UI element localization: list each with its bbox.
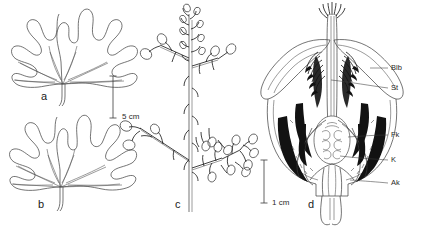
scale-bar-5cm-graphic <box>110 76 117 118</box>
panel-letter-b: b <box>38 199 44 210</box>
callout-label-fk: Fk <box>391 131 399 139</box>
inflorescence-c-drawing <box>118 3 260 212</box>
line-art-layer <box>0 0 423 228</box>
callout-label-k: K <box>391 156 396 164</box>
scale-label-5cm: 5 cm <box>122 113 139 121</box>
figure-plate: a b c d 5 cm 1 cm Blb St Fk K Ak <box>0 0 423 228</box>
callout-label-ak: Ak <box>391 179 400 187</box>
scale-bar-1cm-graphic <box>261 160 268 203</box>
panel-letter-a: a <box>41 91 47 102</box>
callout-label-blb: Blb <box>391 64 402 72</box>
callout-label-st: St <box>391 84 398 92</box>
panel-letter-d: d <box>308 199 314 210</box>
scale-label-1cm: 1 cm <box>272 199 289 207</box>
panel-letter-c: c <box>175 199 181 210</box>
leaf-a-drawing <box>12 9 138 106</box>
flower-section-d-drawing <box>261 2 403 225</box>
leaf-b-drawing <box>10 115 137 211</box>
